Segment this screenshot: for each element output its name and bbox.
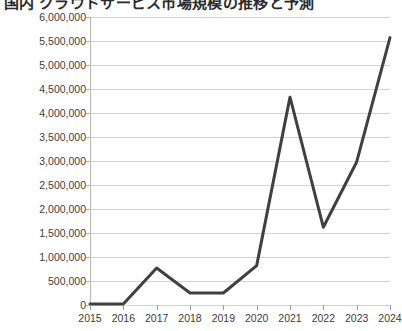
gridline <box>90 137 390 138</box>
x-axis-tick-mark <box>357 305 358 310</box>
x-axis-tick-label: 2022 <box>312 312 335 324</box>
x-axis-tick-mark <box>190 305 191 310</box>
gridline <box>90 161 390 162</box>
y-axis-tick-label: 5,500,000 <box>2 35 86 47</box>
y-axis-tick-label: 1,500,000 <box>2 227 86 239</box>
y-axis-tick-mark <box>86 233 91 234</box>
gridline <box>90 65 390 66</box>
x-axis-tick-label: 2019 <box>212 312 235 324</box>
x-axis-tick-mark <box>323 305 324 310</box>
y-axis-tick-mark <box>86 17 91 18</box>
y-axis-tick-label: 1,000,000 <box>2 251 86 263</box>
plot-area <box>90 17 390 305</box>
x-axis-tick-label: 2021 <box>278 312 301 324</box>
gridline <box>90 17 390 18</box>
x-axis-tick-label: 2018 <box>178 312 201 324</box>
gridline <box>90 41 390 42</box>
y-axis-tick-mark <box>86 209 91 210</box>
x-axis-tick-mark <box>390 305 391 310</box>
gridline <box>90 233 390 234</box>
gridline <box>90 89 390 90</box>
x-axis-tick-mark <box>257 305 258 310</box>
gridline <box>90 209 390 210</box>
y-axis-tick-mark <box>86 161 91 162</box>
gridline <box>90 281 390 282</box>
x-axis-tick-mark <box>223 305 224 310</box>
x-axis-tick-label: 2020 <box>245 312 268 324</box>
y-axis-tick-label: 2,500,000 <box>2 179 86 191</box>
x-axis-tick-mark <box>90 305 91 310</box>
x-axis-tick-label: 2015 <box>78 312 101 324</box>
y-axis-tick-label: 5,000,000 <box>2 59 86 71</box>
y-axis-tick-label: 3,000,000 <box>2 155 86 167</box>
y-axis-tick-mark <box>86 137 91 138</box>
gridline <box>90 257 390 258</box>
y-axis-tick-mark <box>86 185 91 186</box>
y-axis-tick-label: 500,000 <box>2 275 86 287</box>
x-axis-tick-label: 2023 <box>345 312 368 324</box>
x-axis-tick-mark <box>123 305 124 310</box>
y-axis-tick-labels: 0500,0001,000,0001,500,0002,000,0002,500… <box>0 0 86 331</box>
y-axis-tick-mark <box>86 113 91 114</box>
y-axis-tick-label: 3,500,000 <box>2 131 86 143</box>
x-axis-tick-label: 2017 <box>145 312 168 324</box>
y-axis-tick-label: 4,000,000 <box>2 107 86 119</box>
gridline <box>90 185 390 186</box>
y-axis-tick-label: 0 <box>2 299 86 311</box>
x-axis-tick-label: 2016 <box>112 312 135 324</box>
y-axis-tick-mark <box>86 281 91 282</box>
gridline <box>90 113 390 114</box>
y-axis-tick-mark <box>86 65 91 66</box>
gridline <box>90 305 390 306</box>
y-axis-tick-mark <box>86 257 91 258</box>
x-axis-tick-label: 2024 <box>378 312 401 324</box>
y-axis-tick-label: 4,500,000 <box>2 83 86 95</box>
y-axis-tick-mark <box>86 41 91 42</box>
x-axis-tick-mark <box>290 305 291 310</box>
y-axis-tick-label: 6,000,000 <box>2 11 86 23</box>
y-axis-tick-mark <box>86 89 91 90</box>
y-axis-tick-label: 2,000,000 <box>2 203 86 215</box>
x-axis-tick-mark <box>157 305 158 310</box>
